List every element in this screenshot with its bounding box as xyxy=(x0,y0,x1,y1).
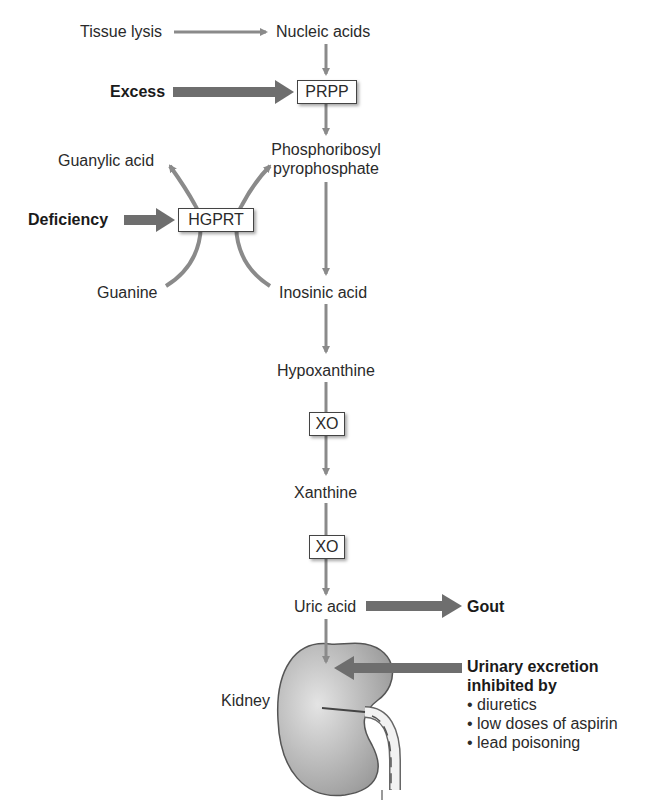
node-tissue-lysis: Tissue lysis xyxy=(80,23,162,41)
enzyme-box-xo-2: XO xyxy=(309,535,345,559)
enzyme-box-prpp: PRPP xyxy=(297,80,357,104)
inhibition-item: • lead poisoning xyxy=(467,733,618,752)
label-deficiency: Deficiency xyxy=(28,211,108,229)
thick-arrow-deficiency xyxy=(124,208,175,232)
node-guanine: Guanine xyxy=(97,284,158,302)
thick-arrow-inhibition xyxy=(334,656,462,680)
phosphoribosyl-line1: Phosphoribosyl xyxy=(266,140,386,159)
node-nucleic-acids: Nucleic acids xyxy=(276,23,370,41)
node-phosphoribosyl-pyrophosphate: Phosphoribosyl pyrophosphate xyxy=(266,140,386,178)
inhibition-item: • diuretics xyxy=(467,695,618,714)
inhibition-list: Urinary excretion inhibited by • diureti… xyxy=(467,657,618,752)
thick-arrow-excess xyxy=(173,80,294,104)
node-inosinic-acid: Inosinic acid xyxy=(279,284,367,302)
label-kidney: Kidney xyxy=(221,692,270,710)
node-uric-acid: Uric acid xyxy=(294,598,356,616)
enzyme-box-xo-1: XO xyxy=(309,412,345,436)
label-excess: Excess xyxy=(110,83,165,101)
node-guanylic-acid: Guanylic acid xyxy=(58,152,154,170)
enzyme-box-hgprt: HGPRT xyxy=(178,208,254,232)
phosphoribosyl-line2: pyrophosphate xyxy=(266,159,386,178)
node-hypoxanthine: Hypoxanthine xyxy=(277,362,375,380)
thick-arrow-gout xyxy=(366,594,462,618)
inhibition-title-line1: Urinary excretion xyxy=(467,657,618,676)
inhibition-title-line2: inhibited by xyxy=(467,676,618,695)
node-xanthine: Xanthine xyxy=(294,484,357,502)
inhibition-item: • low doses of aspirin xyxy=(467,714,618,733)
label-gout: Gout xyxy=(467,598,504,616)
